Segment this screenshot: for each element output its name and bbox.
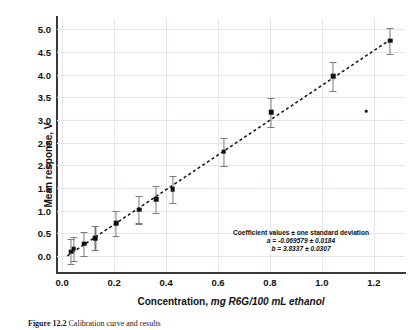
- figure-caption: Figure 12.2 Calibration curve and result…: [28, 319, 390, 328]
- x-axis-title-units: mg R6G/100 mL ethanol: [211, 296, 325, 307]
- data-point: [72, 247, 77, 252]
- error-bar-cap: [153, 213, 160, 214]
- error-bar-cap: [330, 62, 337, 63]
- x-axis-title-plain: Concentration,: [137, 296, 208, 307]
- y-tick-label: 3.5: [17, 92, 51, 103]
- y-tick-label: 5.0: [17, 24, 51, 35]
- y-tick-label: 1.0: [17, 205, 51, 216]
- error-bar-cap: [92, 250, 99, 251]
- y-tick-label: 0.5: [17, 228, 51, 239]
- y-tick-label: 2.5: [17, 137, 51, 148]
- data-point: [154, 197, 159, 202]
- error-bar-cap: [169, 203, 176, 204]
- error-bar-cap: [113, 211, 120, 212]
- data-point: [170, 187, 175, 192]
- x-tick-label: 0.4: [146, 277, 186, 288]
- data-point: [388, 38, 393, 43]
- figure-container: Mean response, V 0.00.51.01.52.02.53.03.…: [0, 0, 418, 330]
- outlier-point: [365, 110, 368, 113]
- error-bar-cap: [81, 232, 88, 233]
- data-point: [137, 208, 142, 213]
- error-bar-cap: [81, 256, 88, 257]
- y-tick-label: 3.0: [17, 115, 51, 126]
- error-bar-cap: [70, 261, 77, 262]
- error-bar-cap: [113, 236, 120, 237]
- error-bar-cap: [70, 237, 77, 238]
- error-bar-cap: [386, 54, 393, 55]
- error-bar-cap: [153, 186, 160, 187]
- error-bar-cap: [268, 127, 275, 128]
- y-tick-label: 2.0: [17, 160, 51, 171]
- error-bar-cap: [68, 264, 75, 265]
- x-tick-label: 0.0: [42, 277, 82, 288]
- coefficient-annotation: Coefficient values ± one standard deviat…: [221, 229, 381, 253]
- x-tick-label: 1.2: [354, 277, 394, 288]
- annotation-coefficient-a: a = -0.069579 ± 0.0184: [221, 237, 381, 245]
- annotation-header: Coefficient values ± one standard deviat…: [221, 229, 381, 237]
- y-tick-label: 4.5: [17, 47, 51, 58]
- y-tick-label: 0.0: [17, 251, 51, 262]
- error-bar-cap: [92, 226, 99, 227]
- error-bar-cap: [220, 138, 227, 139]
- error-bar-cap: [220, 166, 227, 167]
- y-tick-label: 1.5: [17, 183, 51, 194]
- error-bar-cap: [136, 196, 143, 197]
- error-bar-cap: [330, 91, 337, 92]
- error-bar-cap: [136, 223, 143, 224]
- data-point: [221, 150, 226, 155]
- annotation-coefficient-b: b = 3.8337 ± 0.0307: [221, 245, 381, 253]
- data-point: [269, 110, 274, 115]
- x-tick-label: 0.2: [94, 277, 134, 288]
- x-tick-label: 0.8: [250, 277, 290, 288]
- data-point: [331, 74, 336, 79]
- data-point: [93, 236, 98, 241]
- error-bar-cap: [386, 28, 393, 29]
- error-bar-cap: [268, 98, 275, 99]
- data-point: [114, 221, 119, 226]
- y-tick-label: 4.0: [17, 69, 51, 80]
- x-axis-title: Concentration, mg R6G/100 mL ethanol: [57, 296, 405, 307]
- x-tick-label: 1.0: [302, 277, 342, 288]
- x-tick-label: 0.6: [198, 277, 238, 288]
- x-axis-line: [56, 272, 406, 274]
- figure-caption-text: Calibration curve and results: [69, 319, 161, 328]
- figure-number: Figure 12.2: [28, 319, 67, 328]
- data-point: [82, 242, 87, 247]
- error-bar-cap: [169, 176, 176, 177]
